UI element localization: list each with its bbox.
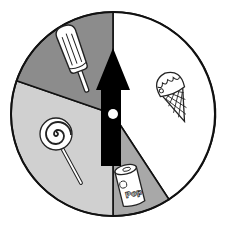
spinner-graphic: Pop [0, 0, 226, 230]
spinner-pivot [108, 109, 118, 119]
spinner: Spinner with four treat sections [0, 0, 226, 230]
